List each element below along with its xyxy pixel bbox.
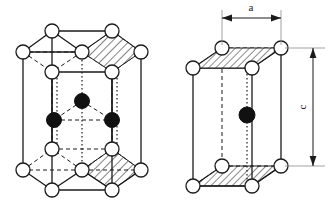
open-atom xyxy=(134,45,148,59)
open-atom xyxy=(45,183,59,197)
open-atom xyxy=(105,142,119,156)
open-atom-center xyxy=(75,163,89,177)
open-atom xyxy=(105,183,119,197)
open-atom xyxy=(134,163,148,177)
hcp-crystal-structure-figure: a c xyxy=(0,0,332,209)
open-atom xyxy=(16,163,30,177)
open-atom xyxy=(245,61,259,75)
filled-atom xyxy=(105,113,120,128)
open-atom xyxy=(45,65,59,79)
filled-atom xyxy=(47,113,62,128)
open-atom xyxy=(186,61,200,75)
open-atom xyxy=(45,24,59,38)
open-atom xyxy=(105,24,119,38)
open-atom xyxy=(245,179,259,193)
dimension-c-label: c xyxy=(296,104,308,109)
open-atom-center xyxy=(75,45,89,59)
crystal-structure-drawing: a c xyxy=(0,0,332,209)
open-atom xyxy=(16,45,30,59)
open-atom xyxy=(105,65,119,79)
dimension-a-label: a xyxy=(249,1,254,13)
open-atom xyxy=(186,179,200,193)
filled-atom xyxy=(75,94,90,109)
filled-atom xyxy=(239,107,255,123)
open-atom xyxy=(45,142,59,156)
open-atom xyxy=(215,159,229,173)
